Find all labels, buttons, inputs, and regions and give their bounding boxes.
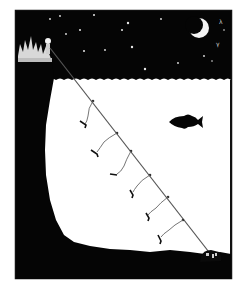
fishing-illustration: λ γ [0,0,246,287]
fisherman-head [45,38,51,44]
svg-text:γ: γ [216,40,220,48]
svg-text:λ: λ [219,18,223,25]
